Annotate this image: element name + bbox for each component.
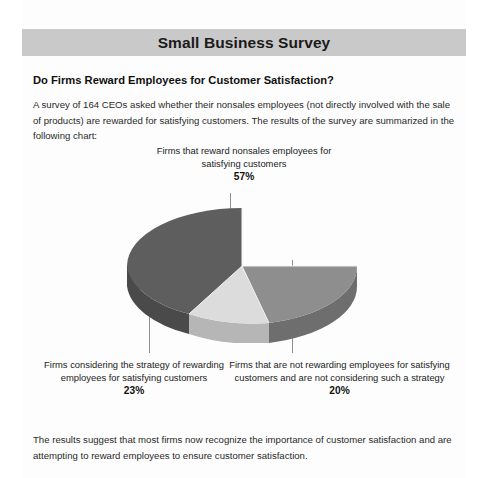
pie-slice-value-considering: 23% [124, 385, 144, 396]
pie-slice-label-not-rewarding: Firms that are not rewarding employees f… [227, 358, 452, 398]
pie-slice-label-considering-text: Firms considering the strategy of reward… [44, 359, 224, 383]
pie-chart-svg [117, 208, 367, 343]
page-title: Small Business Survey [158, 34, 331, 52]
pie-slice-value-reward: 57% [234, 171, 254, 182]
section-subheading: Do Firms Reward Employees for Customer S… [33, 74, 453, 86]
intro-paragraph: A survey of 164 CEOs asked whether their… [33, 97, 457, 144]
pie-chart-figure: Firms that reward nonsales employees for… [22, 140, 466, 420]
pie-slice-value-not-rewarding: 20% [329, 385, 349, 396]
pie-slice-label-reward-text: Firms that reward nonsales employees for… [157, 145, 332, 169]
pie-chart-graphic [117, 208, 367, 343]
header-banner: Small Business Survey [22, 29, 466, 56]
pie-slice-label-reward: Firms that reward nonsales employees for… [146, 144, 342, 184]
pie-slice-label-considering: Firms considering the strategy of reward… [34, 358, 234, 398]
survey-page: Small Business Survey Do Firms Reward Em… [0, 0, 486, 478]
pie-slice-label-not-rewarding-text: Firms that are not rewarding employees f… [229, 359, 449, 383]
conclusion-paragraph: The results suggest that most firms now … [33, 432, 457, 463]
